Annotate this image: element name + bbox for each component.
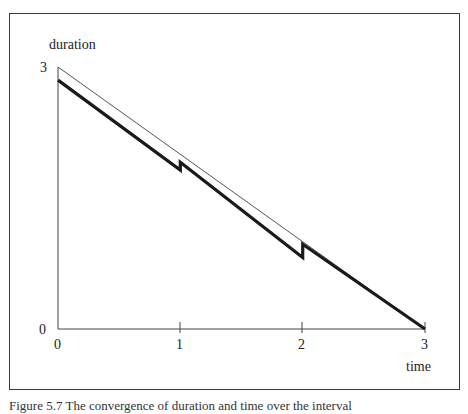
figure-caption: Figure 5.7 The convergence of duration a…	[9, 398, 352, 414]
thick-line-series	[58, 80, 425, 329]
x-axis-label: time	[406, 360, 431, 374]
x-tick-label-3: 3	[421, 338, 428, 352]
x-tick-label-1: 1	[176, 338, 183, 352]
x-tick-label-0: 0	[54, 338, 61, 352]
y-axis-label: duration	[49, 38, 96, 52]
y-tick-label-0: 0	[39, 323, 46, 337]
x-tick-label-2: 2	[298, 338, 305, 352]
y-tick-label-3: 3	[40, 61, 47, 75]
